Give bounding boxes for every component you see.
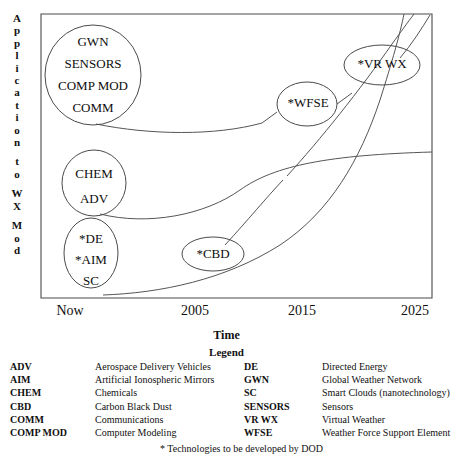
curve-gwn-sensors (96, 15, 430, 133)
legend-row: DE Directed Energy (244, 360, 453, 373)
chart-plot (0, 0, 453, 345)
legend-desc: Weather Force Support Element (322, 426, 450, 439)
legend-desc: Communications (95, 413, 163, 426)
x-tick-now: Now (30, 303, 110, 319)
legend-row: GWN Global Weather Network (244, 373, 453, 386)
ellipse-technology-cbd (182, 237, 244, 271)
ellipse-technology-cluster-top (45, 25, 141, 125)
legend-abbr: AIM (10, 373, 95, 386)
ellipse-technology-cluster-middle (62, 150, 126, 216)
ellipse-technology-cluster-low (64, 218, 118, 288)
legend-row: SENSORS Sensors (244, 400, 453, 413)
legend-abbr: VR WX (244, 413, 322, 426)
legend-row: WFSE Weather Force Support Element (244, 426, 453, 439)
legend-abbr: WFSE (244, 426, 322, 439)
legend-footnote: * Technologies to be developed by DOD (0, 439, 453, 455)
legend-desc: Computer Modeling (95, 426, 176, 439)
legend-desc: Virtual Weather (322, 413, 385, 426)
legend-desc: Sensors (322, 400, 353, 413)
ellipse-technology-wfse (277, 82, 337, 126)
x-axis-title: Time (0, 328, 453, 343)
legend-abbr: CHEM (10, 386, 95, 399)
legend-row: COMM Communications (10, 413, 228, 426)
legend-abbr: SENSORS (244, 400, 322, 413)
legend-abbr: ADV (10, 360, 95, 373)
legend-row: ADV Aerospace Delivery Vehicles (10, 360, 228, 373)
legend-abbr: SC (244, 386, 322, 399)
legend-abbr: CBD (10, 400, 95, 413)
legend-desc: Carbon Black Dust (95, 400, 172, 413)
legend-desc: Artificial Ionospheric Mirrors (95, 373, 214, 386)
legend-columns: ADV Aerospace Delivery Vehicles AIM Arti… (0, 360, 453, 439)
plot-frame (41, 14, 432, 298)
curve-de-aim-sc (103, 14, 404, 295)
legend-row: CBD Carbon Black Dust (10, 400, 228, 413)
x-tick-2005: 2005 (165, 303, 225, 319)
x-tick-2015: 2015 (272, 303, 332, 319)
legend-row: AIM Artificial Ionospheric Mirrors (10, 373, 228, 386)
x-tick-2025: 2025 (385, 303, 445, 319)
legend-column-right: DE Directed Energy GWN Global Weather Ne… (228, 360, 453, 439)
legend-abbr: COMM (10, 413, 95, 426)
legend-abbr: COMP MOD (10, 426, 95, 439)
chart-container: A p p l i c a t i o n t o W X M o d (0, 0, 453, 345)
legend-row: CHEM Chemicals (10, 386, 228, 399)
legend-row: COMP MOD Computer Modeling (10, 426, 228, 439)
bubble-outlines (45, 25, 420, 288)
legend: Legend ADV Aerospace Delivery Vehicles A… (0, 346, 453, 463)
legend-desc: Aerospace Delivery Vehicles (95, 360, 211, 373)
legend-abbr: GWN (244, 373, 322, 386)
legend-desc: Smart Clouds (nanotechnology) (322, 386, 450, 399)
legend-column-left: ADV Aerospace Delivery Vehicles AIM Arti… (0, 360, 228, 439)
legend-desc: Chemicals (95, 386, 137, 399)
legend-row: VR WX Virtual Weather (244, 413, 453, 426)
curve-chem-adv (100, 152, 432, 219)
legend-desc: Global Weather Network (322, 373, 422, 386)
legend-title: Legend (0, 346, 453, 360)
ellipse-technology-vrwx (344, 45, 420, 85)
legend-row: SC Smart Clouds (nanotechnology) (244, 386, 453, 399)
legend-abbr: DE (244, 360, 322, 373)
legend-desc: Directed Energy (322, 360, 388, 373)
